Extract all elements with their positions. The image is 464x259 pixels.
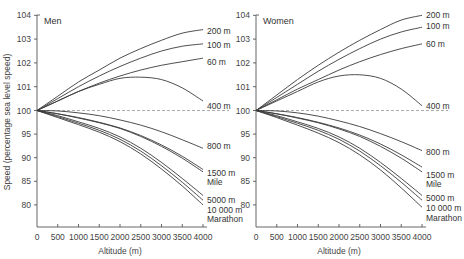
y-tick-label: 104 (17, 10, 31, 20)
panel-title: Men (44, 16, 62, 26)
chart-canvas: Speed (percentage sea level speed) 80859… (0, 0, 464, 259)
y-tick-label: 102 (236, 58, 250, 68)
x-tick-label: 0 (254, 232, 259, 242)
x-tick-label: 4000 (194, 232, 213, 242)
y-tick-label: 90 (22, 153, 32, 163)
x-tick-label: 0 (35, 232, 40, 242)
series-line-200-m (37, 30, 203, 111)
x-tick-label: 1500 (90, 232, 109, 242)
series-label: 100 m (426, 21, 450, 31)
x-tick-label: 2000 (111, 232, 130, 242)
x-tick-label: 3500 (392, 232, 411, 242)
y-tick-label: 103 (236, 34, 250, 44)
x-tick-label: 1000 (288, 232, 307, 242)
y-tick-label: 100 (236, 106, 250, 116)
series-line-400-m (256, 75, 422, 111)
y-tick-label: 103 (17, 34, 31, 44)
x-tick-label: 3000 (152, 232, 171, 242)
y-tick-label: 102 (17, 58, 31, 68)
x-tick-label: 1500 (309, 232, 328, 242)
series-label: Marathon (426, 213, 462, 223)
series-label: Mile (426, 179, 442, 189)
y-tick-label: 90 (241, 153, 251, 163)
series-line-100-m (37, 44, 203, 111)
y-tick-label: 100 (17, 106, 31, 116)
panel-title: Women (263, 16, 294, 26)
y-tick-label: 85 (241, 176, 251, 186)
series-label: 10 000 m (426, 203, 461, 213)
series-label: 400 m (207, 101, 231, 111)
y-tick-label: 101 (17, 82, 31, 92)
series-label: 200 m (426, 10, 450, 20)
y-axis-title: Speed (percentage sea level speed) (2, 54, 12, 191)
y-tick-label: 101 (236, 82, 250, 92)
series-label: 100 m (207, 40, 231, 50)
series-line-marathon (256, 111, 422, 208)
x-tick-label: 3500 (173, 232, 192, 242)
y-tick-label: 95 (22, 129, 32, 139)
x-tick-label: 1000 (69, 232, 88, 242)
series-line-200-m (256, 15, 422, 110)
x-tick-label: 2000 (330, 232, 349, 242)
series-label: 400 m (426, 101, 450, 111)
series-line-marathon (37, 111, 203, 205)
series-label: Marathon (207, 214, 243, 224)
x-axis-title: Altitude (m) (317, 246, 361, 256)
series-line-mile (256, 111, 422, 172)
series-line-60-m (256, 44, 422, 111)
series-label: 800 m (207, 141, 231, 151)
panel-women: 8085909510010110210310405001000150020002… (236, 10, 462, 256)
x-tick-label: 500 (51, 232, 65, 242)
series-label: 60 m (207, 57, 226, 67)
x-tick-label: 500 (270, 232, 284, 242)
x-tick-label: 2500 (131, 232, 150, 242)
altitude-speed-chart: Speed (percentage sea level speed) 80859… (0, 0, 464, 259)
series-label: 5000 m (207, 195, 235, 205)
y-tick-label: 95 (241, 129, 251, 139)
y-tick-label: 80 (241, 200, 251, 210)
x-tick-label: 4000 (413, 232, 432, 242)
x-axis-title: Altitude (m) (98, 246, 142, 256)
y-tick-label: 80 (22, 200, 32, 210)
series-label: 60 m (426, 39, 445, 49)
series-label: Mile (207, 177, 223, 187)
series-label: 200 m (207, 26, 231, 36)
series-label: 5000 m (426, 193, 454, 203)
y-tick-label: 104 (236, 10, 250, 20)
panel-men: 8085909510010110210310405001000150020002… (17, 10, 243, 256)
x-tick-label: 2500 (350, 232, 369, 242)
x-tick-label: 3000 (371, 232, 390, 242)
y-tick-label: 85 (22, 176, 32, 186)
series-label: 800 m (426, 147, 450, 157)
series-line-800-m (37, 111, 203, 149)
